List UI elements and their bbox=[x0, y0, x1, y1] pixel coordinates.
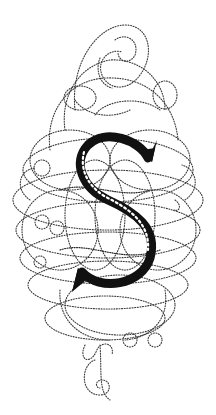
initial-letter-s bbox=[72, 137, 157, 292]
ornamental-initial-artwork: S bbox=[0, 0, 216, 415]
bottom-flourish-group bbox=[45, 275, 175, 400]
ornament-svg bbox=[0, 0, 216, 415]
